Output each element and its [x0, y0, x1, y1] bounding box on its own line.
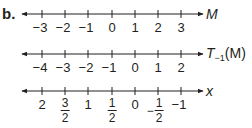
axis-name-t: T−1(M) [206, 46, 246, 65]
tick-label: −1 [172, 98, 187, 112]
tick-label: −1 [79, 21, 94, 35]
tick-label-fraction: 32 [61, 97, 70, 124]
tick-label: 0 [108, 21, 115, 35]
tick-label: 0 [131, 61, 138, 75]
tick-label: 2 [38, 98, 45, 112]
tick-label: 1 [154, 61, 161, 75]
tick-label: −4 [33, 61, 48, 75]
tick-label: −2 [56, 21, 71, 35]
number-line-m [22, 10, 203, 18]
tick-label: 1 [84, 98, 91, 112]
tick-label: 0 [131, 98, 138, 112]
tick-label: 1 [131, 21, 138, 35]
tick-label: −3 [56, 61, 71, 75]
tick-label-negative-fraction: − 12 [147, 97, 164, 124]
number-line-t [22, 50, 203, 58]
axis-name-x: x [206, 84, 213, 98]
tick-label: 2 [154, 21, 161, 35]
tick-label-fraction: 12 [108, 97, 117, 124]
tick-label: 3 [177, 21, 184, 35]
tick-label: 2 [177, 61, 184, 75]
tick-label: −2 [79, 61, 94, 75]
number-line-x [22, 87, 203, 95]
tick-label: −3 [33, 21, 48, 35]
tick-label: −1 [102, 61, 117, 75]
axis-name-m: M [206, 7, 218, 21]
